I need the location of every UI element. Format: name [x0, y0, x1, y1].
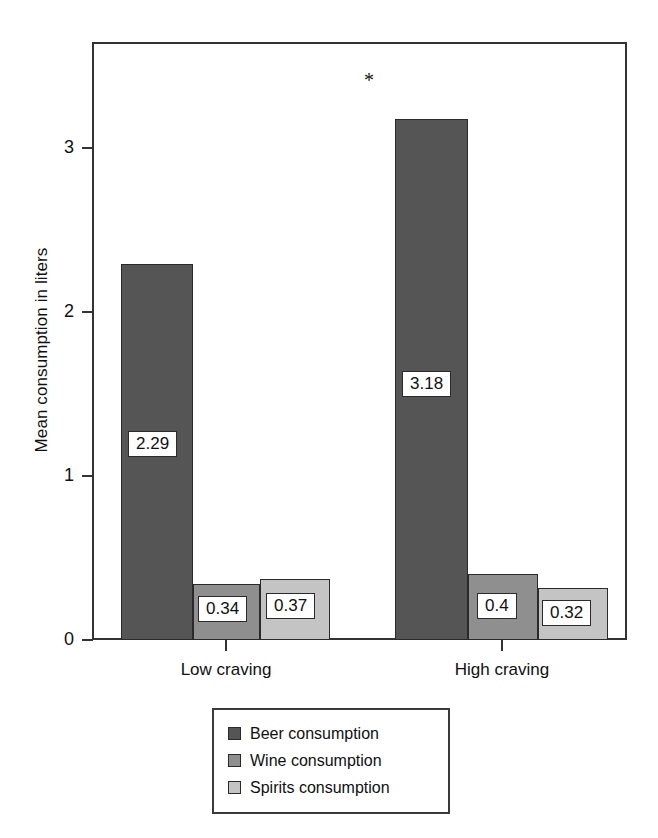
x-tick-mark-high-craving: [501, 640, 503, 651]
value-label-low-craving-wine: 0.34: [198, 596, 247, 622]
x-tick-label-high-craving: High craving: [392, 660, 612, 680]
y-axis-title: Mean consumption in liters: [32, 140, 52, 560]
x-tick-label-low-craving: Low craving: [116, 660, 336, 680]
legend-swatch-wine-icon: [228, 754, 241, 767]
legend-item-spirits: Spirits consumption: [228, 774, 436, 801]
x-tick-mark-low-craving: [225, 640, 227, 651]
legend-swatch-beer-icon: [228, 727, 241, 740]
value-label-low-craving-spirits: 0.37: [266, 593, 315, 619]
legend: Beer consumption Wine consumption Spirit…: [212, 708, 450, 814]
legend-item-beer: Beer consumption: [228, 720, 436, 747]
bar-chart-figure: Mean consumption in liters 0 1 2 3 2.29 …: [0, 0, 658, 838]
value-label-high-craving-wine: 0.4: [477, 593, 517, 619]
value-label-high-craving-spirits: 0.32: [542, 600, 591, 626]
significance-asterisk: *: [364, 70, 374, 90]
y-tick-label-2: 2: [34, 302, 74, 320]
legend-item-wine: Wine consumption: [228, 747, 436, 774]
y-tick-label-0: 0: [34, 630, 74, 648]
y-tick-label-1: 1: [34, 466, 74, 484]
value-label-high-craving-beer: 3.18: [402, 371, 451, 397]
value-label-low-craving-beer: 2.29: [128, 431, 177, 457]
y-tick-label-3: 3: [34, 138, 74, 156]
legend-label-spirits: Spirits consumption: [250, 779, 390, 797]
legend-label-beer: Beer consumption: [250, 725, 379, 743]
legend-swatch-spirits-icon: [228, 781, 241, 794]
legend-label-wine: Wine consumption: [250, 752, 382, 770]
